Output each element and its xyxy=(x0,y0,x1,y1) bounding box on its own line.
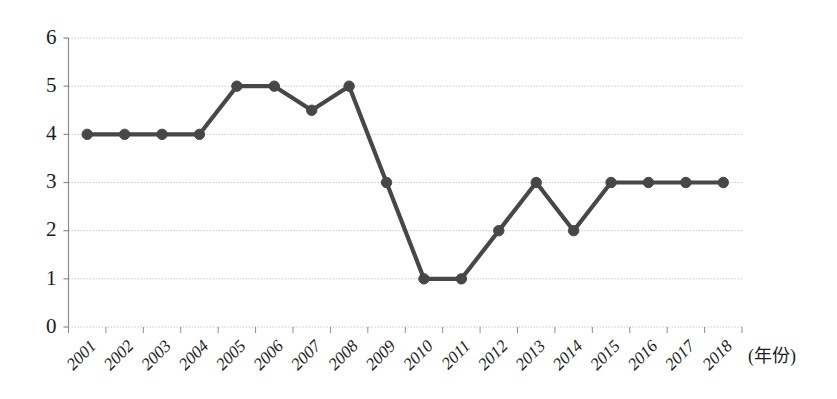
data-point-2012 xyxy=(494,225,504,235)
y-axis-label-6: 6 xyxy=(46,25,57,49)
data-point-2004 xyxy=(194,129,204,139)
data-point-2007 xyxy=(307,105,317,115)
data-point-2014 xyxy=(568,225,578,235)
y-axis-label-4: 4 xyxy=(46,121,57,145)
data-point-2017 xyxy=(681,177,691,187)
data-point-2009 xyxy=(381,177,391,187)
data-point-2010 xyxy=(419,274,429,284)
y-axis-label-2: 2 xyxy=(46,217,57,241)
data-point-2015 xyxy=(606,177,616,187)
y-axis-label-3: 3 xyxy=(46,169,57,193)
data-point-2003 xyxy=(157,129,167,139)
data-point-2001 xyxy=(82,129,92,139)
data-point-2013 xyxy=(531,177,541,187)
data-point-2018 xyxy=(718,177,728,187)
data-point-2005 xyxy=(232,81,242,91)
y-axis-label-1: 1 xyxy=(46,266,57,290)
chart-canvas: 0123456 20012002200320042005200620072008… xyxy=(0,0,837,399)
data-point-2002 xyxy=(119,129,129,139)
y-axis-label-0: 0 xyxy=(46,314,57,338)
data-point-2006 xyxy=(269,81,279,91)
data-point-2016 xyxy=(643,177,653,187)
data-point-2011 xyxy=(456,274,466,284)
line-chart: 0123456 20012002200320042005200620072008… xyxy=(0,0,837,399)
y-axis-label-5: 5 xyxy=(46,73,57,97)
x-axis-title: (年份) xyxy=(748,346,796,367)
data-point-2008 xyxy=(344,81,354,91)
